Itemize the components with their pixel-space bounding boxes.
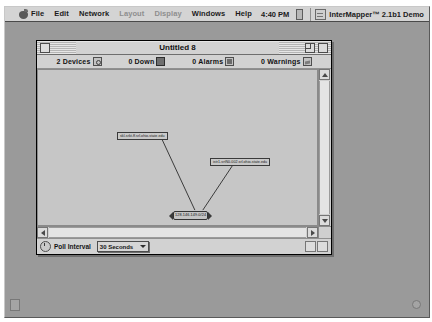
menu-bar-right: 4:40 PM InterMapper™ 2.1b1 Demo — [257, 8, 430, 21]
close-box-icon[interactable] — [40, 43, 50, 53]
down-icon — [156, 57, 165, 66]
menu-divider — [310, 8, 311, 21]
desktop: File Edit Network Layout Display Windows… — [4, 6, 430, 318]
status-down[interactable]: 0 Down — [128, 57, 165, 66]
poll-interval-select[interactable]: 30 Seconds — [97, 241, 149, 252]
menu-item-edit[interactable]: Edit — [49, 7, 74, 21]
window-title-bar[interactable]: Untitled 8 — [37, 41, 331, 55]
status-warnings[interactable]: 0 Warnings — [261, 57, 311, 66]
resize-handle-icon[interactable] — [317, 241, 328, 252]
network-node-label: 128.146.149.0/24 — [173, 211, 208, 220]
vertical-scroll-track[interactable] — [319, 81, 330, 214]
chevron-down-icon — [140, 245, 146, 248]
menu-item-display: Display — [149, 7, 186, 21]
poll-interval-value: 30 Seconds — [100, 244, 133, 250]
scroll-up-arrow-icon[interactable] — [319, 69, 330, 80]
application-icon — [315, 9, 326, 20]
menu-clock[interactable]: 4:40 PM — [257, 10, 293, 19]
status-counts-bar: 2 Devices 0 Down 0 Alarms 0 Warnings — [37, 55, 331, 69]
map-node-device-2[interactable]: istr1-srtN0-002.srl.ohio-state.edu — [210, 158, 270, 166]
warnings-count-label: 0 Warnings — [261, 58, 300, 65]
menu-item-windows[interactable]: Windows — [187, 7, 231, 21]
resize-grow-icon[interactable] — [305, 241, 316, 252]
map-links — [38, 70, 317, 225]
window-bottom-bar: Poll Interval 30 Seconds — [37, 238, 331, 254]
warnings-icon — [303, 57, 312, 66]
window-title-buttons — [305, 43, 331, 53]
network-right-cap-icon — [208, 212, 212, 220]
vertical-scrollbar[interactable] — [318, 69, 331, 226]
menu-item-help[interactable]: Help — [230, 7, 257, 21]
scroll-right-arrow-icon[interactable] — [307, 227, 318, 238]
horizontal-scroll-track[interactable] — [49, 227, 306, 238]
network-map-canvas[interactable]: skl-srkt-ff.srl.ohio-state.edu istr1-srt… — [37, 69, 318, 226]
window-title: Untitled 8 — [76, 42, 279, 54]
status-devices[interactable]: 2 Devices — [56, 57, 101, 66]
window-resize-controls — [305, 241, 328, 252]
menu-item-layout: Layout — [114, 7, 149, 21]
menu-application-name[interactable]: InterMapper™ 2.1b1 Demo — [329, 10, 430, 19]
battery-icon — [296, 9, 303, 20]
alarms-icon — [225, 57, 234, 66]
devices-count-label: 2 Devices — [56, 58, 90, 65]
collapse-box-icon[interactable] — [318, 43, 328, 53]
status-alarms[interactable]: 0 Alarms — [192, 57, 234, 66]
alarms-count-label: 0 Alarms — [192, 58, 223, 65]
map-window: Untitled 8 2 Devices 0 Down 0 Alarms — [36, 40, 332, 255]
scroll-down-arrow-icon[interactable] — [319, 215, 330, 226]
poll-interval-label: Poll Interval — [54, 243, 91, 250]
desktop-icon-bottom-left[interactable] — [10, 299, 20, 311]
screen: File Edit Network Layout Display Windows… — [0, 0, 432, 322]
clock-icon — [40, 241, 51, 252]
menu-item-network[interactable]: Network — [74, 7, 114, 21]
menu-item-file[interactable]: File — [26, 7, 49, 21]
map-node-network[interactable]: 128.146.149.0/24 — [169, 211, 212, 220]
menu-bar: File Edit Network Layout Display Windows… — [5, 7, 429, 22]
devices-icon — [93, 57, 102, 66]
map-node-device-1[interactable]: skl-srkt-ff.srl.ohio-state.edu — [117, 132, 168, 140]
zoom-box-icon[interactable] — [305, 43, 315, 53]
scroll-left-arrow-icon[interactable] — [37, 227, 48, 238]
canvas-area: skl-srkt-ff.srl.ohio-state.edu istr1-srt… — [37, 69, 331, 239]
down-count-label: 0 Down — [128, 58, 154, 65]
desktop-icon-bottom-right[interactable] — [412, 300, 421, 309]
